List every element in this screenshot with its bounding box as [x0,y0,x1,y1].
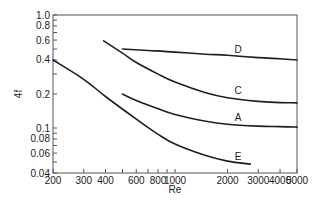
y-tick-label: 0.04 [31,168,51,179]
curve-label-c: C [235,85,242,96]
x-tick-label: 3000 [247,175,270,186]
x-tick-label: 400 [97,175,114,186]
y-tick-label: 0.8 [36,20,50,31]
y-tick-label: 0.2 [36,89,50,100]
curves [53,41,297,164]
curve-label-d: D [235,44,242,55]
curve-labels: DCAE [235,44,242,162]
friction-factor-chart: 200300400600800100020003000400050001.00.… [0,0,326,208]
x-axis-label: Re [169,184,182,195]
axis-tick-labels: 200300400600800100020003000400050001.00.… [31,10,309,187]
x-tick-label: 5000 [286,175,309,186]
y-tick-label: 1.0 [36,10,50,21]
axis-ticks [53,15,297,173]
curve-a [123,94,298,127]
curve-label-a: A [235,112,242,123]
y-tick-label: 0.1 [36,123,50,134]
y-tick-label: 0.08 [31,133,51,144]
y-tick-label: 0.06 [31,148,51,159]
curve-d [123,49,298,60]
x-tick-label: 600 [128,175,145,186]
y-tick-label: 0.6 [36,35,50,46]
y-axis-label: 4f [13,90,24,99]
x-tick-label: 300 [75,175,92,186]
curve-label-e: E [235,151,242,162]
plot-frame [53,15,297,173]
curve-e [53,60,250,164]
y-tick-label: 0.4 [36,54,50,65]
x-tick-label: 2000 [216,175,239,186]
